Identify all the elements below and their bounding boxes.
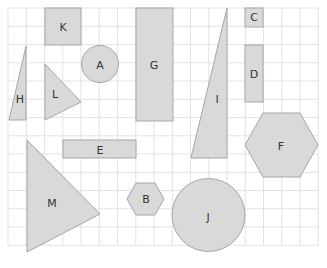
shape-h: H [9, 46, 26, 120]
shape-b-label: B [142, 193, 150, 206]
shape-i-label: I [215, 93, 218, 106]
shape-f: F [245, 113, 318, 177]
shape-g: G [136, 8, 173, 121]
shape-c-label: C [250, 11, 258, 24]
shape-j: J [172, 179, 245, 252]
shape-d: D [245, 45, 263, 102]
shape-e: E [63, 140, 136, 158]
shape-b: B [127, 183, 164, 215]
shape-k-label: K [59, 21, 67, 34]
shape-e-label: E [97, 144, 104, 157]
shape-m-label: M [47, 197, 57, 210]
shape-c: C [245, 8, 263, 27]
shape-h-label: H [16, 93, 24, 106]
shape-k: K [45, 8, 81, 45]
shape-f-label: F [278, 140, 284, 153]
shape-d-label: D [250, 68, 258, 81]
shape-l-label: L [52, 88, 59, 101]
shape-a-label: A [96, 59, 104, 72]
shapes-grid-diagram: K A G C D H L I F E [0, 0, 327, 268]
shape-a: A [82, 46, 119, 83]
shape-g-label: G [150, 59, 159, 72]
shape-j-label: J [205, 211, 209, 224]
